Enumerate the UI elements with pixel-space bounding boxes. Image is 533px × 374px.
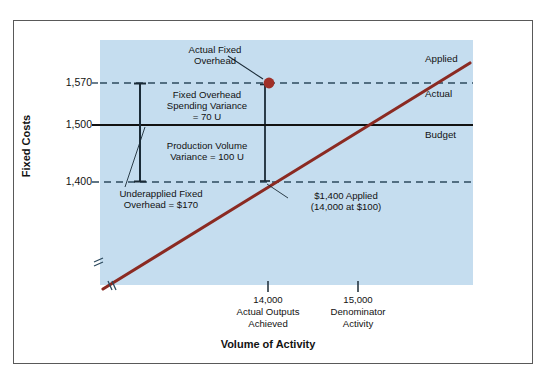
annotation-pvv-line2: Variance = 100 U	[148, 151, 266, 162]
x-tick-label-14000-line3: Achieved	[218, 318, 318, 329]
plot-area-background	[100, 40, 473, 285]
series-label-budget: Budget	[425, 129, 456, 140]
actual-fixed-overhead-marker	[264, 78, 275, 89]
annotation-spending-variance-line1: Fixed Overhead	[148, 89, 266, 100]
annotation-spending-variance-line2: Spending Variance	[148, 100, 266, 111]
annotation-actual-overhead-line1: Actual Fixed	[160, 44, 270, 55]
x-tick-label-15000-line2: Denominator	[308, 306, 408, 317]
y-axis-title: Fixed Costs	[20, 106, 32, 186]
y-tick-label-1570: 1,570	[46, 76, 92, 88]
series-label-actual: Actual	[425, 88, 452, 99]
x-tick-label-15000-value: 15,000	[308, 294, 408, 305]
y-tick-label-1400: 1,400	[46, 175, 92, 187]
series-label-applied: Applied	[425, 53, 458, 64]
annotation-underapplied-line2: Overhead = $170	[98, 199, 224, 210]
x-tick-label-14000-line2: Actual Outputs	[218, 306, 318, 317]
annotation-underapplied-line1: Underapplied Fixed	[98, 188, 224, 199]
annotation-spending-variance-line3: = 70 U	[148, 111, 266, 122]
x-tick-label-15000-line3: Activity	[308, 318, 408, 329]
annotation-actual-overhead-line2: Overhead	[160, 55, 270, 66]
annotation-applied-line1: $1,400 Applied	[288, 190, 404, 201]
annotation-pvv-line1: Production Volume	[148, 140, 266, 151]
y-tick-label-1500: 1,500	[46, 118, 92, 130]
annotation-applied-line2: (14,000 at $100)	[288, 201, 404, 212]
x-axis-title: Volume of Activity	[213, 338, 323, 351]
x-tick-label-14000-value: 14,000	[218, 294, 318, 305]
